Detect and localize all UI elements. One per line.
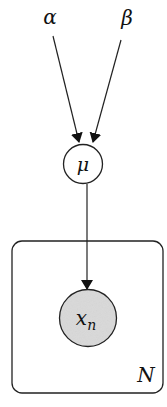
label-beta: β — [120, 6, 133, 30]
graphical-model-diagram: α β μ xn N — [0, 0, 167, 407]
edge-beta-to-mu — [93, 40, 121, 142]
label-mu: μ — [77, 153, 89, 175]
edge-alpha-to-mu — [53, 36, 79, 142]
label-alpha: α — [43, 5, 57, 29]
label-plate-n: N — [136, 363, 156, 387]
label-xn-base: x — [76, 306, 87, 330]
label-xn-subscript: n — [87, 317, 96, 333]
